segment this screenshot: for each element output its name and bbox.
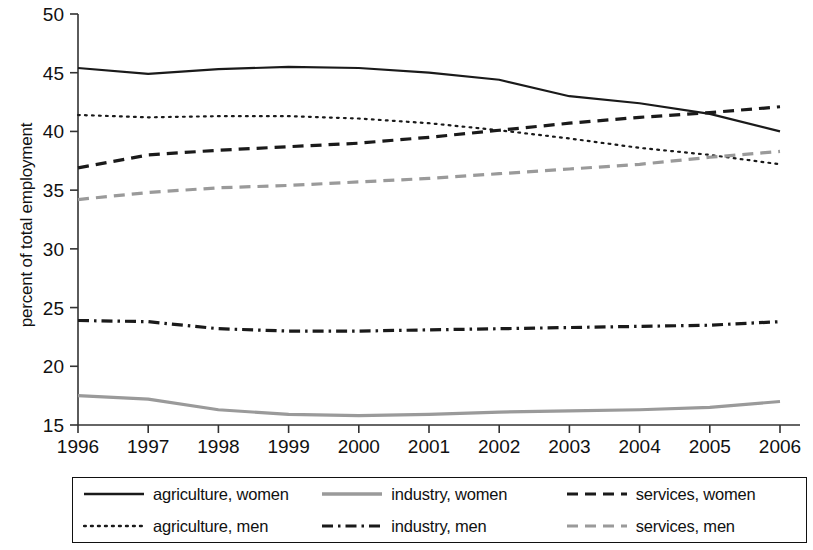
- legend-item[interactable]: industry, women: [317, 485, 561, 504]
- legend-item[interactable]: agriculture, men: [73, 517, 317, 536]
- legend-label: services, men: [636, 517, 735, 536]
- legend-item[interactable]: services, men: [562, 517, 806, 536]
- x-tick-label: 2002: [478, 436, 520, 457]
- legend-swatch: [321, 487, 383, 501]
- series-line: [78, 396, 780, 416]
- x-tick-label: 1998: [197, 436, 239, 457]
- legend-item[interactable]: industry, men: [317, 517, 561, 536]
- legend-swatch: [83, 487, 145, 501]
- y-axis-title: percent of total employment: [17, 85, 37, 365]
- y-tick-label: 20: [43, 356, 64, 377]
- legend-swatch: [321, 519, 383, 533]
- x-tick-label: 2001: [408, 436, 450, 457]
- x-tick-label: 2004: [618, 436, 661, 457]
- legend-swatch: [566, 519, 628, 533]
- x-tick-label: 1996: [57, 436, 99, 457]
- x-tick-label: 2005: [689, 436, 731, 457]
- legend-label: industry, men: [391, 517, 486, 536]
- y-tick-label: 40: [43, 121, 64, 142]
- y-tick-label: 50: [43, 4, 64, 25]
- data-series-group: [78, 67, 780, 416]
- y-tick-label: 25: [43, 298, 64, 319]
- series-line: [78, 151, 780, 199]
- x-tick-label: 1997: [127, 436, 169, 457]
- series-line: [78, 320, 780, 331]
- legend-label: agriculture, women: [153, 485, 289, 504]
- x-tick-label: 2000: [338, 436, 380, 457]
- legend-swatch: [83, 519, 145, 533]
- legend-item[interactable]: agriculture, women: [73, 485, 317, 504]
- x-tick-label: 2003: [548, 436, 590, 457]
- plot-area: 1520253035404550 19961997199819992000200…: [0, 0, 813, 470]
- y-axis-ticks: 1520253035404550: [43, 4, 78, 436]
- series-line: [78, 115, 780, 164]
- x-axis-ticks: 1996199719981999200020012002200320042005…: [57, 425, 801, 457]
- legend-swatch: [566, 487, 628, 501]
- legend: agriculture, womenindustry, womenservice…: [72, 477, 807, 543]
- y-tick-label: 30: [43, 239, 64, 260]
- legend-item[interactable]: services, women: [562, 485, 806, 504]
- series-line: [78, 67, 780, 132]
- x-tick-label: 2006: [759, 436, 801, 457]
- x-tick-label: 1999: [267, 436, 309, 457]
- line-chart: percent of total employment 152025303540…: [0, 0, 813, 550]
- legend-label: industry, women: [391, 485, 507, 504]
- legend-label: services, women: [636, 485, 756, 504]
- y-tick-label: 45: [43, 63, 64, 84]
- y-tick-label: 35: [43, 180, 64, 201]
- y-tick-label: 15: [43, 415, 64, 436]
- legend-label: agriculture, men: [153, 517, 268, 536]
